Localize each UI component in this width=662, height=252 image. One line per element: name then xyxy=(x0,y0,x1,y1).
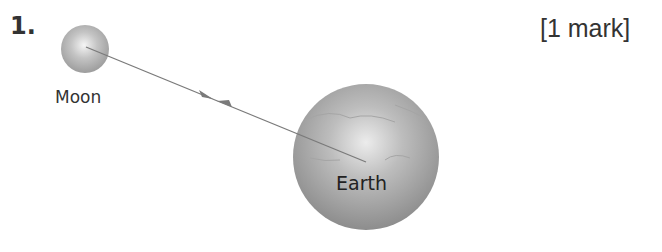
moon-label: Moon xyxy=(55,87,101,107)
moon xyxy=(61,25,109,73)
earth-label: Earth xyxy=(336,172,387,194)
arrow-toward-moon-icon xyxy=(217,100,232,107)
earth xyxy=(293,84,439,230)
moon-earth-diagram xyxy=(0,0,662,252)
arrow-toward-earth-icon xyxy=(199,90,213,99)
